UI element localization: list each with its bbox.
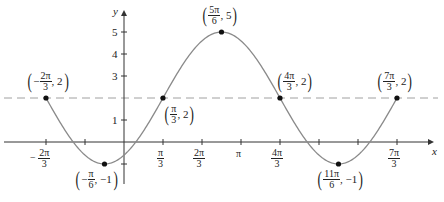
point-label-4pi-3: (4π3, 2)	[276, 70, 314, 92]
point-label-pi-3: (π3, 2)	[163, 103, 196, 125]
y-tick-3: 3	[112, 71, 118, 82]
y-tick-5: 5	[112, 27, 118, 38]
point-label-neg-pi-6: (−π6, −1)	[74, 168, 119, 190]
x-axis-label: x	[432, 146, 437, 157]
chart-canvas	[0, 0, 444, 202]
x-tick-pi: π	[236, 148, 241, 159]
x-tick-4pi-3: 4π3	[271, 148, 283, 169]
y-tick-4: 4	[112, 49, 118, 60]
point-label-7pi-3: (7π3, 2)	[376, 70, 414, 92]
y-axis-label: y	[113, 6, 118, 17]
y-tick-1: 1	[112, 115, 118, 126]
x-tick-7pi-3: 7π3	[388, 148, 400, 169]
point-label-neg-2pi-3: (−2π3, 2)	[26, 70, 70, 92]
x-tick-pi-3: π3	[157, 148, 164, 169]
point-label-5pi-6: (5π6, 5)	[201, 4, 239, 26]
point-label-11pi-6: (11π6, −1)	[316, 168, 365, 190]
y-axis-arrow-icon	[121, 10, 127, 16]
x-tick-neg-2pi-3: − 2π3	[30, 148, 50, 169]
x-tick-2pi-3: 2π3	[193, 148, 205, 169]
